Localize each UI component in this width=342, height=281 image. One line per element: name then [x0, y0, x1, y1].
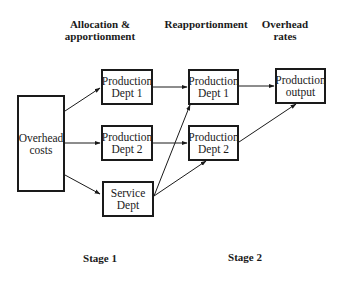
box-production-dept-2-stage2: Production Dept 2	[188, 125, 239, 161]
stage-2-label: Stage 2	[215, 251, 275, 263]
arrow-overhead-to-service	[65, 175, 100, 194]
arrow-service-to-prod2-s2	[154, 161, 206, 196]
arrow-overhead-to-prod1	[65, 88, 100, 111]
box-service-dept: Service Dept	[102, 181, 154, 217]
box-production-dept-2-stage2-label: Production Dept 2	[188, 131, 238, 155]
box-production-dept-2-stage1: Production Dept 2	[101, 125, 153, 161]
overhead-flow-diagram: Allocation & apportionment Reapportionme…	[0, 0, 342, 281]
box-production-output-label: Production output	[275, 74, 325, 98]
box-production-dept-1-stage1: Production Dept 1	[101, 69, 153, 105]
box-production-dept-2-stage1-label: Production Dept 2	[102, 131, 152, 155]
box-production-dept-1-stage2: Production Dept 1	[188, 69, 239, 105]
box-overhead-costs-label: Overhead costs	[19, 132, 64, 156]
box-overhead-costs: Overhead costs	[17, 95, 65, 192]
box-production-output: Production output	[275, 68, 326, 104]
box-production-dept-1-stage2-label: Production Dept 1	[188, 75, 238, 99]
box-service-dept-label: Service Dept	[111, 187, 145, 211]
header-reapportionment: Reapportionment	[162, 18, 250, 30]
arrow-prod2-s2-to-output	[239, 104, 296, 142]
box-production-dept-1-stage1-label: Production Dept 1	[102, 75, 152, 99]
stage-1-label: Stage 1	[70, 252, 130, 264]
arrow-service-to-prod1-s2	[154, 105, 190, 196]
header-overhead-rates: Overhead rates	[250, 18, 320, 42]
header-allocation-apportionment: Allocation & apportionment	[52, 18, 148, 42]
